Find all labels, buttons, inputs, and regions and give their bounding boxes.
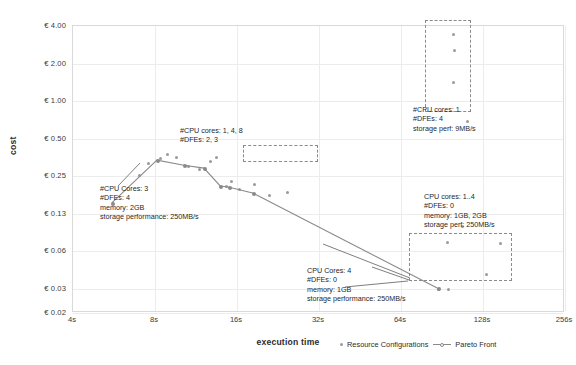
data-point (209, 160, 212, 163)
legend-item-pareto-front: Pareto Front (433, 340, 496, 349)
data-point (268, 194, 271, 197)
pareto-point (228, 186, 232, 190)
annotation-right-line2: #DFEs: 0 (424, 201, 495, 210)
y-axis-tick-label: € 0.25 (0, 171, 66, 180)
cluster-box-top-right (425, 20, 471, 112)
scatter-dot-icon (340, 343, 343, 346)
pareto-point (252, 192, 256, 196)
y-axis-title: cost (8, 137, 18, 155)
annotation-right-line1: CPU cores: 1..4 (424, 192, 495, 201)
x-axis-tick-label: 32s (312, 315, 324, 324)
y-axis-tick-label: € 0.02 (0, 308, 66, 317)
cluster-box-bottom-right (409, 233, 512, 281)
annotation-top-right-line1: #CPU cores: 1 (413, 105, 476, 114)
annotation-right-line3: memory: 1GB, 2GB (424, 211, 495, 220)
x-axis-tick-label: 64s (394, 315, 406, 324)
annotation-left-line4: storage performance: 250MB/s (100, 212, 199, 221)
data-point (238, 188, 241, 191)
data-point (286, 191, 289, 194)
annotation-top-right: #CPU cores: 1 #DFEs: 4 storage perf: 9MB… (413, 105, 476, 133)
pareto-point (156, 159, 160, 163)
annotation-top-cluster-line1: #CPU cores: 1, 4, 8 (180, 126, 243, 135)
line-marker-icon (433, 341, 451, 348)
gridline (73, 313, 563, 314)
data-point (253, 183, 256, 186)
pareto-point (219, 185, 223, 189)
y-axis-tick-label: € 0.13 (0, 208, 66, 217)
annotation-right-line4: storage perf: 250MB/s (424, 220, 495, 229)
annotation-bottom-line2: #DFEs: 0 (307, 275, 406, 284)
data-point (198, 168, 201, 171)
pareto-point (203, 167, 207, 171)
y-axis-tick-label: € 2.00 (0, 58, 66, 67)
annotation-top-right-line3: storage perf: 9MB/s (413, 124, 476, 133)
pareto-point (183, 164, 187, 168)
x-axis-tick-label: 128s (474, 315, 490, 324)
gridline (73, 101, 563, 102)
annotation-bottom: CPU Cores: 4 #DFEs: 0 memory: 1GB storag… (307, 266, 406, 304)
annotation-bottom-line1: CPU Cores: 4 (307, 266, 406, 275)
legend-label-pareto-front: Pareto Front (455, 340, 496, 349)
cost-vs-execution-time-chart: € 4.00€ 2.00€ 1.00€ 0.50€ 0.25€ 0.13€ 0.… (0, 0, 576, 365)
data-point (230, 180, 233, 183)
data-point (138, 174, 141, 177)
annotation-top-cluster: #CPU cores: 1, 4, 8 #DFEs: 2, 3 (180, 126, 243, 145)
annotation-left-line1: #CPU Cores: 3 (100, 184, 199, 193)
gridline (73, 64, 563, 65)
cluster-box-top-middle (243, 145, 318, 162)
chart-legend: Resource Configurations Pareto Front (340, 340, 496, 349)
x-axis-tick-label: 4s (68, 315, 76, 324)
x-axis-tick-label: 16s (230, 315, 242, 324)
annotation-left-line2: #DFEs: 4 (100, 193, 199, 202)
pareto-point (437, 287, 441, 291)
y-axis-tick-label: € 0.06 (0, 246, 66, 255)
annotation-bottom-line3: memory: 1GB (307, 285, 406, 294)
legend-item-resource-configurations: Resource Configurations (340, 340, 428, 349)
gridline (237, 26, 238, 311)
annotation-top-cluster-line2: #DFEs: 2, 3 (180, 135, 243, 144)
x-axis-tick-label: 8s (150, 315, 158, 324)
y-axis-tick-label: € 0.03 (0, 283, 66, 292)
annotation-left-line3: memory: 2GB (100, 203, 199, 212)
gridline (73, 139, 563, 140)
gridline (155, 26, 156, 311)
legend-label-resource-configurations: Resource Configurations (347, 340, 428, 349)
y-axis-tick-label: € 1.00 (0, 96, 66, 105)
data-point (215, 156, 218, 159)
annotation-top-right-line2: #DFEs: 4 (413, 114, 476, 123)
data-point (147, 162, 150, 165)
annotation-left: #CPU Cores: 3 #DFEs: 4 memory: 2GB stora… (100, 184, 199, 222)
y-axis-tick-label: € 4.00 (0, 21, 66, 30)
x-axis-tick-label: 256s (556, 315, 572, 324)
annotation-right: CPU cores: 1..4 #DFEs: 0 memory: 1GB, 2G… (424, 192, 495, 230)
data-point (166, 153, 169, 156)
data-point (187, 165, 190, 168)
data-point (175, 156, 178, 159)
annotation-bottom-line4: storage performance: 250MB/s (307, 294, 406, 303)
gridline (73, 176, 563, 177)
gridline (565, 26, 566, 311)
